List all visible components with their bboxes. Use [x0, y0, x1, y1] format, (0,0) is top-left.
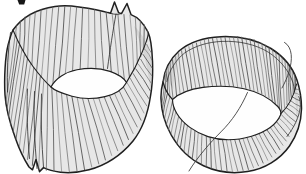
illustration-canvas	[0, 0, 306, 174]
left-band-drawing	[5, 2, 153, 173]
figure-container	[0, 0, 306, 174]
cropped-text-fragment	[18, 0, 26, 5]
right-band-drawing	[161, 36, 302, 172]
